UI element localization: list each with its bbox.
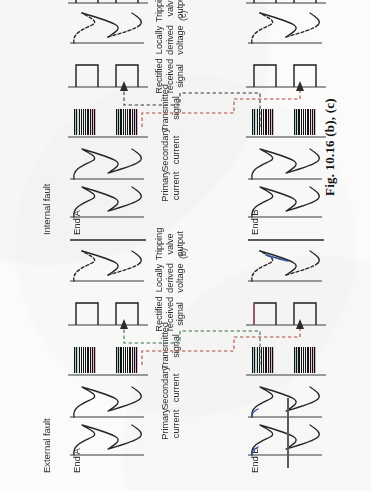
rotated-figure: External fault End A End B Primary curre…	[36, 11, 336, 481]
part-b-label: (b)	[178, 248, 189, 259]
part-b-enda-locally-derived-voltage	[68, 243, 146, 285]
figure-caption: Fig. 10.16 (b), (c)	[322, 98, 338, 196]
scanned-page: External fault End A End B Primary curre…	[0, 0, 371, 491]
part-c-enda-tripping-valve-output	[66, 0, 150, 7]
part-b-condition-title: External fault	[42, 418, 53, 473]
part-c-endb-locally-derived-voltage	[246, 5, 324, 47]
figure-part-c: Internal fault End A End B Primary curre…	[36, 11, 336, 243]
part-c-endb-primary-current	[246, 179, 324, 221]
figure-part-b: External fault End A End B Primary curre…	[36, 249, 336, 481]
part-c-endb-tripping-valve-output	[244, 0, 328, 7]
page-rule	[287, 398, 289, 468]
part-b-endb-locally-derived-voltage	[246, 243, 324, 285]
part-b-endb-primary-current	[246, 417, 324, 459]
part-b-enda-primary-current	[68, 417, 146, 459]
part-c-signal-links	[64, 67, 332, 147]
part-c-label: (c)	[178, 10, 189, 20]
part-c-enda-locally-derived-voltage	[68, 5, 146, 47]
part-c-enda-primary-current	[68, 179, 146, 221]
part-b-signal-links	[64, 305, 332, 385]
part-c-condition-title: Internal fault	[42, 183, 53, 234]
